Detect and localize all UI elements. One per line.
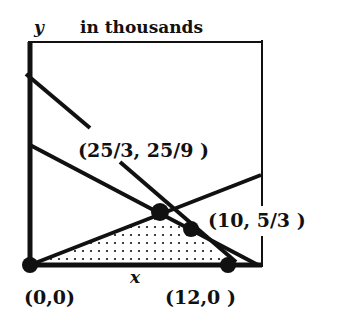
label-12-0: (12,0 ) — [165, 286, 236, 308]
steep-constraint-line-upper — [26, 74, 90, 128]
label-origin: (0,0) — [24, 286, 75, 308]
point-10-5-3 — [183, 221, 199, 237]
point-12-0 — [220, 257, 236, 273]
x-axis-label: x — [129, 267, 141, 287]
label-10-5-3: (10, 5/3 ) — [208, 209, 306, 231]
feasible-region — [34, 214, 228, 262]
label-intersection: (25/3, 25/9 ) — [78, 139, 209, 161]
chart-title: in thousands — [80, 17, 203, 37]
lp-diagram: y in thousands x (25/3, 25/9 ) (10, 5/3 … — [0, 0, 343, 334]
point-intersection — [151, 203, 169, 221]
y-axis-label: y — [33, 17, 45, 37]
point-origin — [22, 257, 38, 273]
